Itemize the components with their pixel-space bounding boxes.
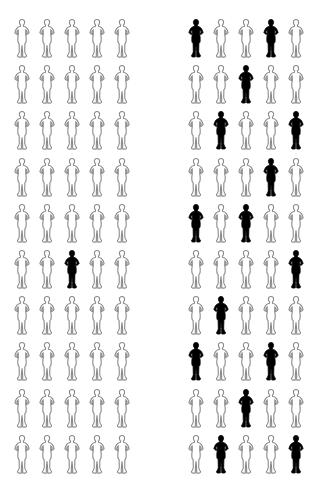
person-figure-icon bbox=[187, 64, 205, 106]
person-figure-icon bbox=[88, 18, 106, 60]
person-icon bbox=[183, 110, 208, 156]
person-icon bbox=[258, 203, 283, 249]
person-figure-icon bbox=[262, 157, 280, 199]
person-figure-icon bbox=[13, 388, 31, 430]
person-figure-icon bbox=[287, 341, 305, 383]
person-figure-icon bbox=[63, 341, 81, 383]
person-icon bbox=[34, 388, 59, 434]
person-figure-icon bbox=[38, 341, 56, 383]
person-figure-icon bbox=[237, 157, 255, 199]
person-figure-icon bbox=[212, 295, 230, 337]
person-icon bbox=[84, 388, 109, 434]
person-figure-icon bbox=[63, 388, 81, 430]
person-figure-icon bbox=[38, 295, 56, 337]
person-figure-icon bbox=[38, 434, 56, 476]
person-icon bbox=[183, 249, 208, 295]
person-figure-icon bbox=[13, 18, 31, 60]
person-figure-icon bbox=[88, 157, 106, 199]
person-icon bbox=[183, 64, 208, 110]
person-figure-icon bbox=[113, 388, 131, 430]
person-figure-icon bbox=[237, 388, 255, 430]
person-icon bbox=[233, 249, 258, 295]
person-icon bbox=[208, 203, 233, 249]
person-figure-icon bbox=[13, 64, 31, 106]
person-figure-icon bbox=[88, 388, 106, 430]
person-icon bbox=[283, 64, 308, 110]
person-icon bbox=[183, 434, 208, 480]
person-figure-icon bbox=[287, 434, 305, 476]
person-icon bbox=[109, 64, 134, 110]
person-icon bbox=[84, 295, 109, 341]
person-icon-highlighted bbox=[258, 18, 283, 64]
person-figure-icon bbox=[212, 64, 230, 106]
person-figure-icon bbox=[237, 110, 255, 152]
person-icon bbox=[258, 295, 283, 341]
person-icon bbox=[9, 249, 34, 295]
person-figure-icon bbox=[113, 157, 131, 199]
person-icon bbox=[59, 110, 84, 156]
person-icon bbox=[208, 157, 233, 203]
person-figure-icon bbox=[287, 203, 305, 245]
person-icon bbox=[208, 18, 233, 64]
person-figure-icon bbox=[237, 18, 255, 60]
person-icon bbox=[109, 434, 134, 480]
person-icon bbox=[258, 249, 283, 295]
person-icon-highlighted bbox=[208, 295, 233, 341]
person-figure-icon bbox=[212, 110, 230, 152]
person-icon-highlighted bbox=[183, 18, 208, 64]
person-icon bbox=[208, 249, 233, 295]
person-icon bbox=[233, 18, 258, 64]
person-figure-icon bbox=[237, 341, 255, 383]
person-icon bbox=[283, 18, 308, 64]
person-icon bbox=[59, 434, 84, 480]
person-icon bbox=[9, 203, 34, 249]
person-icon-highlighted bbox=[258, 157, 283, 203]
person-figure-icon bbox=[13, 295, 31, 337]
person-figure-icon bbox=[262, 64, 280, 106]
icon-array-left bbox=[9, 18, 134, 480]
person-figure-icon bbox=[262, 434, 280, 476]
person-figure-icon bbox=[237, 203, 255, 245]
person-figure-icon bbox=[38, 388, 56, 430]
person-icon bbox=[84, 157, 109, 203]
person-icon bbox=[9, 295, 34, 341]
person-figure-icon bbox=[237, 295, 255, 337]
person-figure-icon bbox=[13, 110, 31, 152]
person-figure-icon bbox=[187, 295, 205, 337]
person-figure-icon bbox=[13, 157, 31, 199]
person-icon-highlighted bbox=[283, 110, 308, 156]
person-icon bbox=[9, 341, 34, 387]
person-figure-icon bbox=[187, 18, 205, 60]
person-icon bbox=[208, 341, 233, 387]
person-figure-icon bbox=[63, 249, 81, 291]
person-icon-highlighted bbox=[183, 341, 208, 387]
person-icon bbox=[283, 295, 308, 341]
person-icon-highlighted bbox=[258, 341, 283, 387]
person-figure-icon bbox=[287, 157, 305, 199]
person-figure-icon bbox=[212, 18, 230, 60]
person-figure-icon bbox=[113, 249, 131, 291]
person-icon bbox=[84, 64, 109, 110]
person-figure-icon bbox=[187, 110, 205, 152]
person-icon bbox=[9, 64, 34, 110]
person-figure-icon bbox=[187, 388, 205, 430]
person-figure-icon bbox=[237, 64, 255, 106]
person-icon bbox=[34, 203, 59, 249]
person-figure-icon bbox=[187, 434, 205, 476]
person-icon bbox=[283, 388, 308, 434]
person-icon bbox=[109, 110, 134, 156]
person-icon-highlighted bbox=[183, 203, 208, 249]
icon-array-right bbox=[183, 18, 308, 480]
person-figure-icon bbox=[287, 18, 305, 60]
person-figure-icon bbox=[212, 249, 230, 291]
person-figure-icon bbox=[63, 157, 81, 199]
person-icon bbox=[34, 341, 59, 387]
person-icon bbox=[84, 434, 109, 480]
person-icon bbox=[208, 388, 233, 434]
person-figure-icon bbox=[38, 64, 56, 106]
person-figure-icon bbox=[13, 203, 31, 245]
person-figure-icon bbox=[38, 18, 56, 60]
person-icon bbox=[109, 157, 134, 203]
person-figure-icon bbox=[262, 110, 280, 152]
person-icon bbox=[59, 157, 84, 203]
